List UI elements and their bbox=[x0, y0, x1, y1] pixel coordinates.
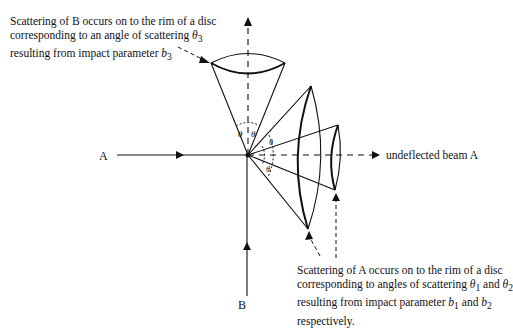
caption-b: Scattering of B occurs on to the rim of … bbox=[10, 14, 216, 65]
caption-b-line1: Scattering of B occurs on to the rim of … bbox=[10, 14, 216, 28]
caption-a-line4: respectively. bbox=[297, 314, 513, 328]
cone-a-large bbox=[248, 86, 321, 229]
caption-a-line2: corresponding to angles of scattering θ1… bbox=[297, 277, 513, 295]
caption-a-line1: Scattering of A occurs on to the rim of … bbox=[297, 263, 513, 277]
undeflected-arrow-icon bbox=[372, 151, 380, 159]
pointer-a-small-arrow-icon bbox=[332, 193, 340, 201]
theta3-left-mark: θ bbox=[238, 129, 243, 139]
beam-b-arrow-icon bbox=[243, 242, 251, 250]
caption-b-line2: corresponding to an angle of scattering … bbox=[10, 28, 216, 46]
beam-a-undeflected bbox=[248, 151, 380, 159]
caption-b-line3: resulting from impact parameter b3 bbox=[10, 46, 216, 64]
caption-a-line3: resulting from impact parameter b1 and b… bbox=[297, 295, 513, 313]
beam-b-label: B bbox=[238, 298, 246, 313]
undeflected-beam-label: undeflected beam A bbox=[386, 149, 478, 161]
beam-b-up-arrow-icon bbox=[244, 17, 252, 26]
pointer-a-large-arrow-icon bbox=[305, 231, 313, 240]
cone-a-small bbox=[248, 125, 340, 190]
theta1-lower-mark: θ bbox=[266, 165, 270, 174]
beam-a-arrow-icon bbox=[176, 151, 184, 159]
theta1-mark: θ bbox=[269, 138, 273, 147]
beam-a-label: A bbox=[99, 149, 108, 164]
caption-a: Scattering of A occurs on to the rim of … bbox=[297, 263, 513, 328]
pointer-a-small bbox=[332, 193, 340, 258]
pointer-a-large bbox=[305, 231, 320, 256]
beam-b-incoming bbox=[243, 155, 251, 296]
scattering-center bbox=[246, 153, 251, 158]
theta3-right-mark: θ bbox=[251, 129, 256, 139]
beam-a-incoming bbox=[117, 151, 248, 159]
